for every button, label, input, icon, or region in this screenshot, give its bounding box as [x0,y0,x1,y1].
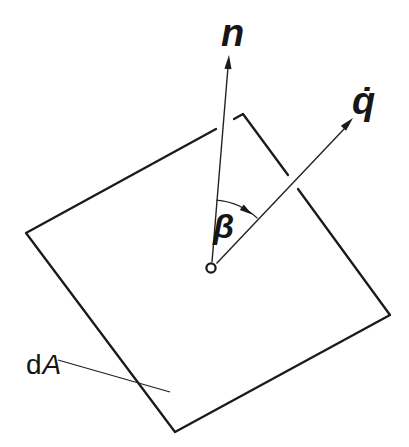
surface-point-marker [206,263,215,272]
q-vector-line [217,128,346,264]
surface-outline-main [26,129,390,432]
surface-outline-top-corner [234,114,288,175]
q-dot-label: q̇ [352,82,375,120]
n-vector-arrowhead-icon [224,55,231,69]
dA-leader-line [58,360,170,392]
beta-arc-arrowhead-icon [240,205,252,215]
n-label: n [221,14,244,52]
dA-label-A: A [43,349,63,380]
dA-label: dA [26,351,62,379]
dA-label-d: d [26,349,43,380]
diagram-canvas: n q̇ β dA [0,0,409,447]
beta-angle-label: β [213,209,234,243]
